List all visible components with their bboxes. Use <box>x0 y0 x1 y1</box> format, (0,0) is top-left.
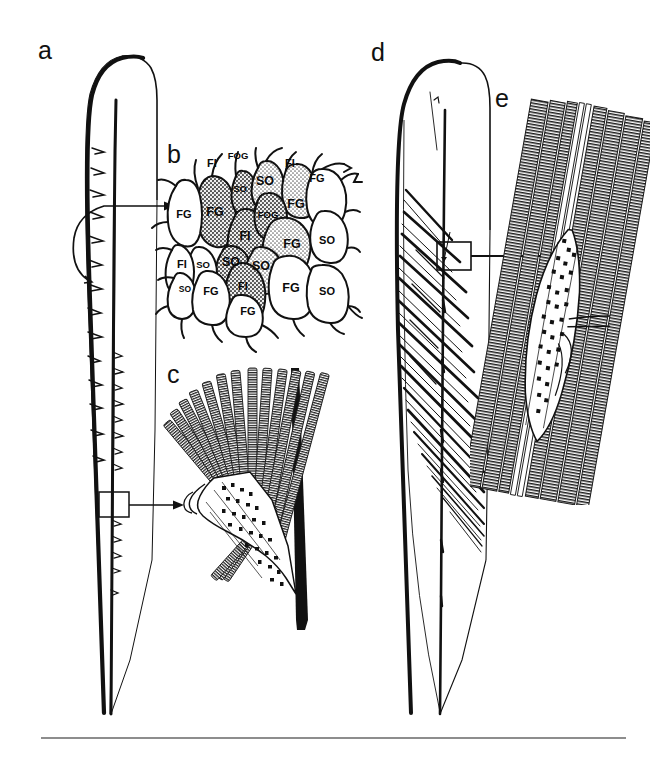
cell-label-so-16: SO <box>252 260 270 273</box>
cell-label-so-3: SO <box>233 184 247 194</box>
cell-label-fg-8: FG <box>287 198 304 211</box>
cell-label-so-12: SO <box>319 235 335 246</box>
cell-label-fi-2: FI <box>285 158 295 169</box>
cell-label-fi-19: FI <box>238 281 248 292</box>
cell-label-fi-10: FI <box>239 230 250 243</box>
cell-label-fg-22: FG <box>240 306 255 317</box>
cell-label-so-4: SO <box>256 175 274 188</box>
cell-label-so-21: SO <box>319 286 335 297</box>
panel-b-artwork <box>0 0 663 757</box>
cell-label-so-17: SO <box>179 285 191 294</box>
cell-label-fi-0: FI <box>207 158 217 169</box>
cell-label-so-14: SO <box>196 260 210 270</box>
cell-label-so-15: SO <box>222 256 240 269</box>
panel-letter-d: d <box>371 40 385 65</box>
cell-label-fog-1: FOG <box>228 151 249 161</box>
panel-letter-b: b <box>167 142 181 167</box>
panel-letter-e: e <box>495 86 509 111</box>
footer-rule <box>41 737 626 739</box>
cell-label-fg-9: FG <box>176 209 191 220</box>
cell-label-fg-5: FG <box>309 173 324 184</box>
cell-label-fg-6: FG <box>206 206 223 219</box>
cell-label-fog-7: FOG <box>258 210 279 220</box>
cell-label-fg-11: FG <box>283 238 300 251</box>
cell-label-fg-18: FG <box>203 286 218 297</box>
cell-label-fg-20: FG <box>282 282 299 295</box>
panel-letter-a: a <box>38 38 52 63</box>
figure-plate: FIFOGFISOSOFGFGFOGFGFGFIFGSOFISOSOSOSOFG… <box>0 0 663 757</box>
cell-label-fi-13: FI <box>177 259 187 270</box>
panel-letter-c: c <box>167 362 180 387</box>
